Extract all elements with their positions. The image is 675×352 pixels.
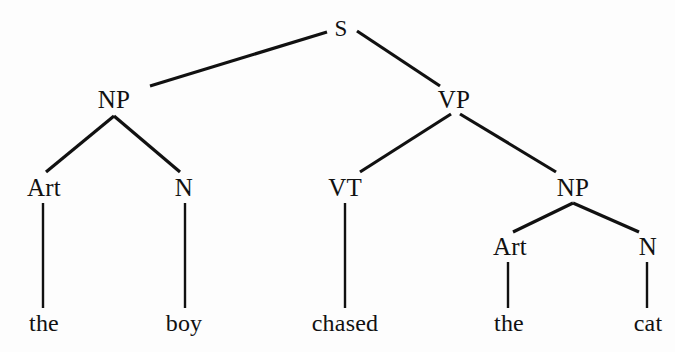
tree-node-n2: N [639, 234, 657, 259]
edge-np1-art1 [46, 116, 114, 172]
tree-node-s: S [335, 17, 348, 40]
tree-node-word_cat: cat [634, 311, 663, 335]
edge-np2-n2 [573, 203, 639, 232]
edge-vp-np2 [460, 114, 556, 172]
tree-node-vp: VP [438, 87, 470, 112]
tree-node-n1: N [175, 175, 193, 200]
edge-s-np1 [150, 32, 327, 86]
tree-node-vt: VT [328, 175, 362, 200]
edge-vp-vt [360, 114, 451, 172]
tree-node-word_the2: the [494, 311, 524, 335]
tree-node-art2: Art [493, 234, 527, 259]
edge-np2-art2 [513, 203, 573, 232]
phrase-structure-tree-figure: SNPVPArtNVTNPArtNtheboychasedthecat [0, 0, 675, 352]
edge-s-vp [357, 31, 440, 86]
tree-node-word_boy: boy [166, 311, 203, 335]
tree-node-word_the1: the [29, 311, 59, 335]
edge-np1-n1 [114, 116, 180, 172]
tree-node-np1: NP [98, 87, 130, 112]
tree-node-word_chased: chased [312, 311, 379, 335]
tree-node-art1: Art [27, 175, 61, 200]
tree-node-np2: NP [557, 175, 589, 200]
